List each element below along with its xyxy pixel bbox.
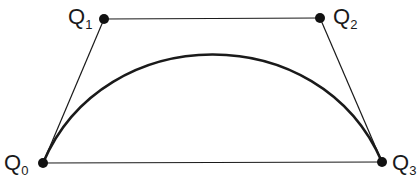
label-q2-letter: Q bbox=[333, 4, 350, 29]
point-q0 bbox=[38, 158, 48, 168]
label-q2: Q2 bbox=[333, 4, 357, 32]
label-q1-letter: Q bbox=[68, 4, 85, 29]
label-q1-subscript: 1 bbox=[85, 17, 92, 32]
label-q0-letter: Q bbox=[4, 150, 21, 175]
bezier-diagram: Q0 Q1 Q2 Q3 bbox=[0, 0, 420, 188]
segment-q0-q1 bbox=[43, 19, 104, 163]
segment-q1-q2 bbox=[104, 18, 320, 19]
label-q0-subscript: 0 bbox=[21, 163, 28, 178]
point-q1 bbox=[99, 14, 109, 24]
label-q0: Q0 bbox=[4, 150, 28, 178]
label-q1: Q1 bbox=[68, 4, 92, 32]
label-q3: Q3 bbox=[392, 150, 416, 178]
label-q3-subscript: 3 bbox=[409, 163, 416, 178]
bezier-curve bbox=[43, 54, 382, 163]
point-q2 bbox=[315, 13, 325, 23]
label-q3-letter: Q bbox=[392, 150, 409, 175]
segment-q2-q3 bbox=[320, 18, 382, 162]
point-q3 bbox=[377, 157, 387, 167]
label-q2-subscript: 2 bbox=[350, 17, 357, 32]
segment-q0-q3 bbox=[43, 162, 382, 163]
